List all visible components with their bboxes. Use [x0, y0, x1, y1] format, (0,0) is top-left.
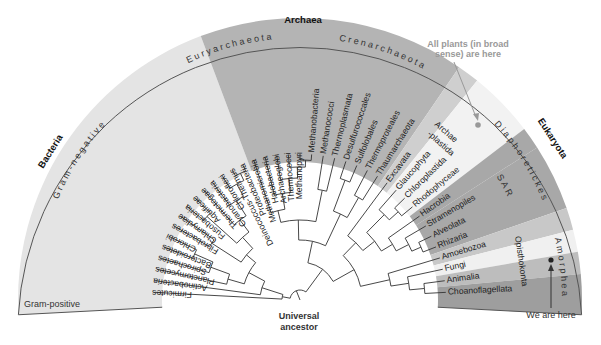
branch: [333, 270, 354, 282]
branch: [391, 283, 409, 286]
branch: [211, 267, 230, 274]
we-are-here-dot-icon: [548, 257, 553, 262]
branch: [388, 216, 419, 238]
branch: [412, 247, 421, 251]
branch: [410, 288, 425, 289]
branch: [316, 190, 322, 221]
branch: [296, 291, 300, 300]
branch: [326, 214, 341, 246]
branch: [363, 241, 375, 250]
branch: [343, 243, 356, 256]
tree-canvas: FirmicutesActinobacteriaPlanctomycetesSp…: [0, 0, 601, 345]
leaf-label: Methanopyri: [294, 152, 304, 199]
plants-dot-icon: [475, 122, 481, 128]
sector-bacteria: [18, 36, 251, 315]
branch: [243, 237, 253, 248]
group-label-gram-positive: Gram-positive: [24, 299, 80, 309]
branch: [333, 180, 345, 211]
universal-ancestor-label-line2: ancestor: [280, 322, 318, 332]
branch: [228, 279, 244, 284]
branch: [278, 211, 281, 223]
domain-label-archaea: Archaea: [284, 14, 322, 25]
branch: [360, 280, 389, 287]
branch: [308, 241, 313, 263]
branch: [367, 215, 385, 233]
universal-ancestor-label-line1: Universal: [279, 311, 320, 321]
branch: [249, 273, 265, 281]
branch: [306, 269, 323, 292]
plants-note-line1: All plants (in broad: [427, 39, 509, 49]
branch: [282, 297, 290, 298]
branch: [348, 183, 387, 236]
branch: [262, 288, 283, 295]
we-are-here-label: We are here: [526, 310, 575, 320]
branch: [389, 212, 398, 220]
branch: [381, 244, 392, 251]
tree-of-life-diagram: FirmicutesActinobacteriaPlanctomycetesSp…: [0, 0, 601, 345]
plants-note-line2: sense) are here: [435, 49, 501, 59]
branch: [347, 198, 358, 218]
branch: [246, 255, 255, 263]
branch: [396, 245, 408, 251]
